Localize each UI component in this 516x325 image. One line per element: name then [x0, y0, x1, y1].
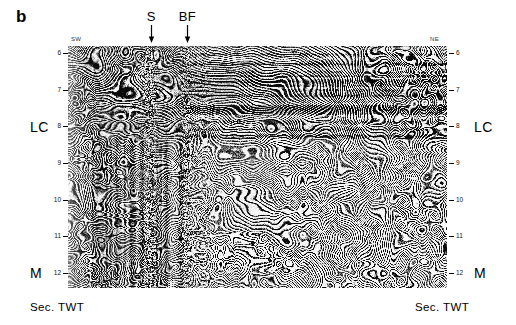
time-axis-left: 6789101112 [42, 46, 68, 288]
axis-tick-mark [449, 236, 454, 237]
axis-tick-label: 9 [456, 160, 460, 167]
horizon-lower-crust-right: LC [474, 120, 493, 134]
horizon-lower-crust-left: LC [30, 120, 49, 134]
axis-tick-mark [63, 273, 68, 274]
axis-tick-label: 8 [57, 123, 61, 130]
axis-tick-mark [63, 236, 68, 237]
axis-tick-label: 10 [54, 196, 61, 203]
axis-tick-label: 12 [54, 270, 61, 277]
direction-label-sw: SW [71, 36, 81, 42]
axis-tick-mark [449, 90, 454, 91]
time-axis-right: 6789101112 [449, 46, 475, 288]
seismic-wiggle-trace-image [68, 46, 447, 288]
axis-tick-label: 10 [456, 196, 463, 203]
axis-tick-mark [63, 126, 68, 127]
axis-tick-mark [63, 200, 68, 201]
axis-tick-label: 12 [456, 270, 463, 277]
axis-tick-mark [63, 90, 68, 91]
axis-tick-mark [449, 53, 454, 54]
axis-tick-label: 8 [456, 123, 460, 130]
down-arrow-icon [183, 25, 192, 43]
direction-label-ne: NE [430, 36, 439, 42]
axis-tick-mark [449, 163, 454, 164]
axis-tick-label: 6 [57, 50, 61, 57]
axis-unit-label-right: Sec. TWT [415, 302, 469, 314]
axis-tick-label: 7 [456, 86, 460, 93]
horizon-moho-left: M [30, 266, 42, 280]
axis-tick-label: 11 [456, 233, 463, 240]
axis-tick-label: 7 [57, 86, 61, 93]
down-arrow-icon [147, 25, 156, 43]
annotation-s: S [136, 10, 166, 43]
axis-tick-mark [63, 163, 68, 164]
axis-tick-label: 9 [57, 160, 61, 167]
axis-tick-mark [449, 273, 454, 274]
annotation-bf: BF [172, 10, 202, 43]
annotation-bf-label: BF [172, 10, 202, 23]
axis-tick-mark [449, 126, 454, 127]
axis-unit-label-left: Sec. TWT [30, 302, 84, 314]
axis-tick-label: 6 [456, 50, 460, 57]
panel-label: b [16, 8, 26, 25]
axis-tick-mark [449, 200, 454, 201]
seismic-figure-panel: b SW NE S BF 6789101112 6789101112 LC M … [0, 0, 516, 325]
horizon-moho-right: M [474, 266, 486, 280]
annotation-s-label: S [136, 10, 166, 23]
axis-tick-mark [63, 53, 68, 54]
seismic-section [68, 46, 447, 288]
axis-tick-label: 11 [54, 233, 61, 240]
